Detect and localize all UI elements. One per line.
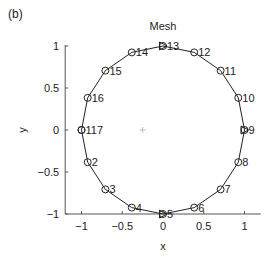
x-tick-label: 1 — [241, 220, 247, 232]
x-axis-label: x — [160, 240, 166, 252]
plot-marks: 1172345678910111213141516 — [78, 40, 255, 220]
node-label: 16 — [92, 92, 104, 104]
node-label: 10 — [242, 92, 254, 104]
x-tick-label: 0 — [160, 220, 166, 232]
node-label: 4 — [136, 202, 142, 214]
node-label: 2 — [92, 156, 98, 168]
node-label: 5 — [167, 208, 173, 220]
node-label: 7 — [225, 183, 231, 195]
y-tick-label: −1 — [47, 208, 60, 220]
x-tick-label: −1 — [75, 220, 88, 232]
x-tick-label: 0.5 — [196, 220, 211, 232]
node-label: 11 — [225, 65, 236, 77]
chart-title: Mesh — [150, 20, 177, 32]
node-label: 8 — [242, 156, 248, 168]
node-label: 3 — [109, 183, 115, 195]
y-tick-label: 1 — [53, 40, 59, 52]
node-label: 14 — [136, 46, 148, 58]
node-label: 15 — [109, 65, 121, 77]
panel-label: (b) — [8, 7, 23, 21]
node-label: 13 — [167, 40, 179, 52]
y-tick-label: −0.5 — [37, 166, 59, 178]
mesh-chart: (b) Mesh −1−0.500.51−1−0.500.51 11723456… — [0, 0, 279, 260]
x-tick-label: −0.5 — [111, 220, 133, 232]
y-tick-label: 0 — [53, 124, 59, 136]
node-label: 6 — [198, 202, 204, 214]
node-label: 12 — [198, 46, 210, 58]
y-tick-label: 0.5 — [44, 82, 59, 94]
y-axis-label: y — [16, 127, 28, 133]
node-label: 9 — [249, 124, 255, 136]
node-label: 117 — [86, 124, 104, 136]
mesh-boundary-line — [82, 46, 245, 214]
